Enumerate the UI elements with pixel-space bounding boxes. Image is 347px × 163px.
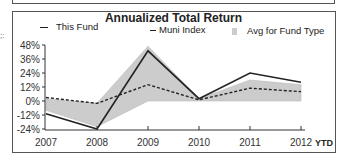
y-tick-label: 0% xyxy=(26,96,41,107)
y-tick-label: 24% xyxy=(20,68,40,79)
y-tick-label: 48% xyxy=(20,40,40,51)
y-tick-label: -12% xyxy=(17,110,40,121)
x-tick-label: 2008 xyxy=(86,137,109,148)
y-tick-label: -24% xyxy=(17,124,40,135)
x-tick-label: 2010 xyxy=(188,137,211,148)
x-tick-label: 2009 xyxy=(137,137,160,148)
x-tick-label: 2012 xyxy=(290,137,313,148)
avg-fund-type-area xyxy=(46,46,301,127)
plot-area: 48%36%24%12%0%-12%-24%200720082009201020… xyxy=(0,0,347,163)
y-tick-label: 12% xyxy=(20,82,40,93)
y-tick-label: 36% xyxy=(20,54,40,65)
ytd-label: YTD xyxy=(315,138,334,148)
x-tick-label: 2011 xyxy=(239,137,261,148)
area-fill xyxy=(46,46,301,127)
x-tick-label: 2007 xyxy=(35,137,58,148)
